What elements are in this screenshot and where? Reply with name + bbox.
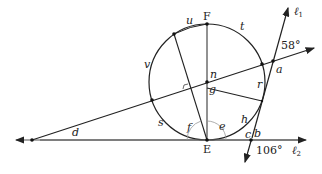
points — [30, 22, 275, 142]
label-r: r — [257, 79, 262, 90]
label-t: t — [240, 21, 244, 32]
label-d: d — [72, 127, 79, 138]
label-n: n — [210, 69, 217, 80]
geometry-diagram: F u t v n g a r s h f e E c b d 58° 106°… — [0, 0, 322, 174]
label-s: s — [158, 117, 164, 128]
label-angle-58: 58° — [281, 40, 301, 51]
label-v: v — [144, 59, 150, 70]
line-l1 — [252, 8, 288, 138]
label-l2: ℓ2 — [292, 145, 301, 158]
label-f: f — [187, 122, 191, 133]
label-c: c — [245, 129, 251, 140]
label-F: F — [203, 11, 211, 22]
label-e: e — [219, 121, 226, 132]
label-b: b — [254, 128, 261, 139]
label-E: E — [203, 144, 211, 155]
label-u: u — [186, 15, 193, 26]
label-a: a — [276, 64, 283, 75]
label-h: h — [241, 114, 248, 125]
label-angle-106: 106° — [256, 145, 283, 156]
label-l1: ℓ1 — [294, 6, 303, 19]
label-g: g — [209, 84, 216, 95]
